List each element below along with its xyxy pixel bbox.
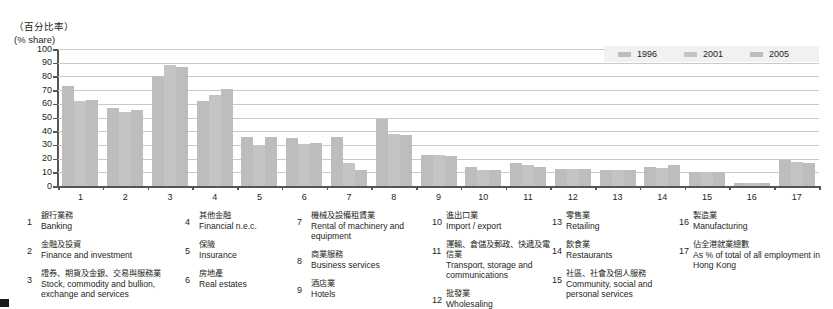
key-entry-label-en: Community, social and personal services	[566, 279, 679, 299]
bar-2005-12	[579, 169, 591, 186]
key-entry-text: 金融及投資Finance and investment	[41, 240, 185, 260]
y-axis-tick-label: 0	[8, 182, 52, 191]
key-entry-label-en: Wholesaling	[446, 299, 552, 309]
key-entry-label-en: Restaurants	[566, 250, 679, 260]
bar-1996-2	[107, 108, 119, 186]
legend-label: 2005	[769, 49, 789, 59]
bar-2005-11	[534, 167, 546, 186]
key-entry-6: 6房地產Real estates	[185, 269, 297, 289]
bar-1996-17	[779, 160, 791, 186]
x-axis-tick	[729, 186, 731, 190]
key-entry-label-zh: 運輸、倉儲及郵政、快遞及電信業	[446, 240, 552, 260]
key-entry-number: 15	[552, 269, 566, 299]
x-axis-tick	[774, 186, 776, 190]
bar-group	[148, 49, 193, 186]
key-entry-number: 2	[27, 240, 41, 260]
bar-2005-15	[713, 172, 725, 186]
x-axis-tick	[685, 186, 687, 190]
y-axis-tick-label: 100	[8, 45, 52, 54]
x-axis-tick-label: 13	[595, 192, 640, 202]
bar-2001-1	[74, 101, 86, 186]
x-axis-tick-label: 12	[550, 192, 595, 202]
key-entry-text: 進出口業Import / export	[446, 211, 552, 231]
bar-2001-14	[656, 168, 668, 186]
bar-2005-1	[86, 100, 98, 186]
key-column: 7機械及設備租賃業Rental of machinery and equipme…	[297, 211, 432, 303]
key-entry-13: 13零售業Retailing	[552, 211, 679, 231]
bar-2005-4	[221, 89, 233, 186]
x-axis-tick	[595, 186, 597, 190]
legend-item-2001[interactable]: 2001	[684, 49, 723, 59]
key-entry-label-en: Rental of machinery and equipment	[311, 221, 432, 241]
bar-1996-11	[510, 163, 522, 186]
y-axis-tick-label: 20	[8, 154, 52, 163]
key-entry-text: 酒店業Hotels	[311, 279, 432, 299]
key-entry-number: 7	[297, 211, 311, 241]
key-entry-label-en: Import / export	[446, 221, 552, 231]
key-entry-text: 房地產Real estates	[199, 269, 297, 289]
legend-item-1996[interactable]: 1996	[618, 49, 657, 59]
corner-mark	[0, 299, 9, 307]
key-entry-number: 17	[679, 240, 693, 270]
key-entry-text: 社區、社會及個人服務Community, social and personal…	[566, 269, 679, 299]
x-axis-tick	[327, 186, 329, 190]
key-entry-label-en: Manufacturing	[693, 221, 824, 231]
key-entry-label-zh: 商業服務	[311, 250, 432, 260]
key-entry-7: 7機械及設備租賃業Rental of machinery and equipme…	[297, 211, 432, 241]
x-axis-tick-label: 7	[327, 192, 372, 202]
key-column: 1銀行業務Banking2金融及投資Finance and investment…	[27, 211, 185, 303]
x-axis-tick-label: 1	[58, 192, 103, 202]
bar-2005-9	[445, 156, 457, 186]
key-entry-17: 17佔全港就業總數As % of total of all employment…	[679, 240, 824, 270]
key-entry-label-zh: 進出口業	[446, 211, 552, 221]
bar-2001-12	[567, 169, 579, 186]
y-axis-tick-label: 10	[8, 168, 52, 177]
bar-group	[506, 49, 551, 186]
bar-2001-9	[433, 155, 445, 187]
bar-1996-6	[286, 138, 298, 186]
key-entry-12: 12批發業Wholesaling	[432, 289, 552, 309]
x-axis-tick	[282, 186, 284, 190]
key-column: 4其他金融Financial n.e.c.5保險Insurance6房地產Rea…	[185, 211, 297, 303]
bar-group	[282, 49, 327, 186]
key-entry-label-zh: 保險	[199, 240, 297, 250]
key-entry-5: 5保險Insurance	[185, 240, 297, 260]
bar-1996-12	[555, 169, 567, 186]
chart-legend: 199620012005	[604, 46, 819, 62]
x-axis-tick	[640, 186, 642, 190]
key-entry-label-zh: 機械及設備租賃業	[311, 211, 432, 221]
bar-group	[416, 49, 461, 186]
key-entry-label-en: Business services	[311, 260, 432, 270]
bar-2001-4	[209, 95, 221, 186]
key-entry-11: 11運輸、倉儲及郵政、快遞及電信業Transport, storage and …	[432, 240, 552, 280]
key-entry-label-zh: 酒店業	[311, 279, 432, 289]
x-axis-tick	[416, 186, 418, 190]
bar-group	[237, 49, 282, 186]
key-entry-label-zh: 佔全港就業總數	[693, 240, 824, 250]
x-axis-tick-label: 10	[461, 192, 506, 202]
key-entry-3: 3證券、期貨及金銀、交易與服務業Stock, commodity and bul…	[27, 269, 185, 299]
bar-2001-7	[343, 163, 355, 186]
bar-group	[103, 49, 148, 186]
bar-group	[774, 49, 819, 186]
key-entry-number: 10	[432, 211, 446, 231]
y-axis-tick-label: 80	[8, 72, 52, 81]
legend-item-2005[interactable]: 2005	[750, 49, 789, 59]
x-axis-tick-label: 6	[282, 192, 327, 202]
key-entry-label-zh: 房地產	[199, 269, 297, 279]
key-entry-label-en: Hotels	[311, 289, 432, 299]
x-axis-tick	[461, 186, 463, 190]
bar-2001-6	[298, 144, 310, 186]
key-entry-number: 9	[297, 279, 311, 299]
x-axis-tick-label: 2	[103, 192, 148, 202]
bar-group	[461, 49, 506, 186]
key-entry-label-zh: 飲食業	[566, 240, 679, 250]
x-axis-tick	[237, 186, 239, 190]
x-axis-tick	[58, 186, 60, 190]
bar-group	[327, 49, 372, 186]
x-axis-tick	[148, 186, 150, 190]
x-axis-tick	[819, 186, 821, 190]
bar-1996-15	[689, 172, 701, 186]
bar-group	[640, 49, 685, 186]
